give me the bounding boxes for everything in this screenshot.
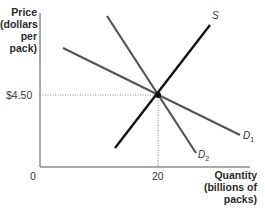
y-axis-label-line: pack) bbox=[0, 42, 37, 54]
supply-demand-chart: Price (dollars per pack) $4.50 0 20 Quan… bbox=[0, 0, 265, 211]
demand-curve-d1 bbox=[63, 48, 240, 135]
y-axis-label-line: (dollars bbox=[0, 18, 37, 30]
y-axis-label: Price (dollars per pack) bbox=[0, 6, 37, 54]
curve-label-subscript: 2 bbox=[205, 155, 209, 162]
x-axis-label-line: (billions of bbox=[177, 181, 257, 193]
x-axis-label-line: packs) bbox=[177, 193, 257, 205]
y-axis-label-line: per bbox=[0, 30, 37, 42]
demand-d1-label: D1 bbox=[243, 130, 254, 143]
curve-label-text: S bbox=[212, 10, 219, 21]
demand-curve-d2 bbox=[107, 16, 196, 153]
x-tick-label: 20 bbox=[152, 170, 164, 182]
demand-d2-label: D2 bbox=[198, 149, 209, 162]
supply-curve-s bbox=[115, 25, 210, 148]
x-axis-label: Quantity (billions of packs) bbox=[177, 169, 257, 205]
y-tick-label: $4.50 bbox=[6, 89, 32, 101]
y-axis-label-line: Price bbox=[0, 6, 37, 18]
equilibrium-point bbox=[155, 92, 161, 98]
x-axis-label-line: Quantity bbox=[177, 169, 257, 181]
curve-label-subscript: 1 bbox=[250, 136, 254, 143]
origin-label: 0 bbox=[30, 170, 36, 182]
supply-curve-label: S bbox=[212, 10, 219, 21]
